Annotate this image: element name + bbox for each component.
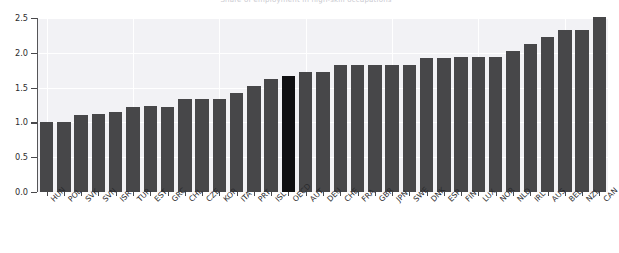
bar-oecd <box>282 76 295 192</box>
bar-swe <box>403 65 416 192</box>
bar-pol <box>57 122 70 192</box>
y-tick <box>31 157 37 158</box>
x-tick-label-isl: ISL <box>274 190 288 204</box>
bar-esp <box>437 58 450 192</box>
bar-aut <box>299 72 312 192</box>
bar-hun <box>40 122 53 192</box>
x-tick <box>254 192 255 196</box>
bar-cze <box>195 99 208 192</box>
y-tick-label: 1.5 <box>0 84 28 92</box>
y-tick-label: 2.5 <box>0 14 28 22</box>
y-tick-label: 2.0 <box>0 49 28 57</box>
y-tick <box>31 122 37 123</box>
bar-isr <box>109 112 122 192</box>
bar-lux <box>472 57 485 192</box>
bar-tur <box>126 107 139 192</box>
y-tick <box>31 53 37 54</box>
bar-svk <box>74 115 87 192</box>
bar-deu <box>316 72 329 192</box>
gridline-horizontal <box>38 18 608 19</box>
y-tick-label: 0.0 <box>0 188 28 196</box>
chart-title-strip: Share of employment in high-skill occupa… <box>0 0 612 9</box>
bar-fra <box>351 65 364 192</box>
bar-est <box>144 106 157 192</box>
bar-svn <box>92 114 105 192</box>
gridline-horizontal <box>38 53 608 54</box>
y-tick-label: 0.5 <box>0 153 28 161</box>
bar-che <box>334 65 347 192</box>
x-tick <box>288 192 289 196</box>
bar-can <box>593 17 606 192</box>
bar-kor <box>213 99 226 192</box>
x-tick <box>478 192 479 196</box>
y-tick <box>31 88 37 89</box>
bar-nzl <box>575 30 588 192</box>
bar-ita <box>230 93 243 192</box>
bar-isl <box>264 79 277 192</box>
x-tick <box>47 192 48 196</box>
bar-irl <box>524 44 537 192</box>
y-tick <box>31 18 37 19</box>
x-tick <box>133 192 134 196</box>
plot-area <box>38 18 608 192</box>
bar-chl <box>178 99 191 192</box>
bar-jpn <box>385 65 398 192</box>
bar-fin <box>454 57 467 192</box>
bar-gbr <box>368 65 381 192</box>
chart-title: Share of employment in high-skill occupa… <box>220 0 391 4</box>
y-tick <box>31 192 37 193</box>
bar-nor <box>489 57 502 192</box>
bar-grc <box>161 107 174 192</box>
bar-nld <box>506 51 519 192</box>
x-tick <box>548 192 549 196</box>
y-tick-label: 1.0 <box>0 118 28 126</box>
bar-prt <box>247 86 260 192</box>
bar-bel <box>558 30 571 192</box>
bar-dnk <box>420 58 433 192</box>
bar-aus <box>541 37 554 192</box>
